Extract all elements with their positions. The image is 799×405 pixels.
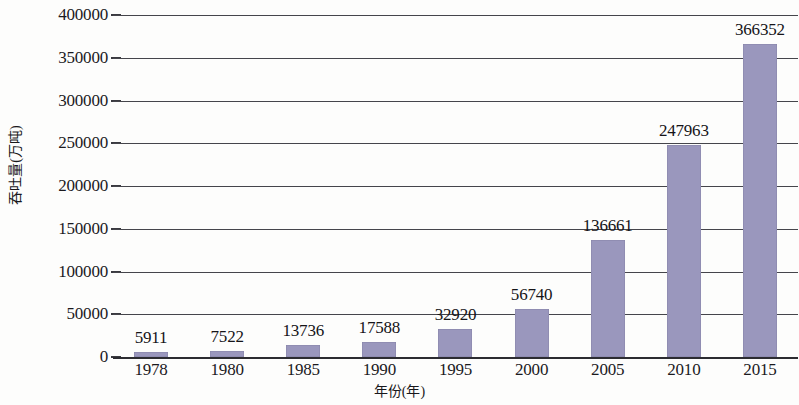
bar[interactable]: [362, 342, 396, 357]
x-axis-tick-label: 2005: [591, 360, 624, 380]
x-axis-title: 年份(年): [0, 380, 799, 400]
bar-group: 247963: [646, 15, 722, 357]
gridline: [113, 357, 798, 359]
bar[interactable]: [286, 345, 320, 357]
bar[interactable]: [134, 352, 168, 357]
bar-group: 17588: [341, 15, 417, 357]
y-axis-tick-label: 150000: [0, 219, 108, 239]
bar-value-label: 366352: [735, 20, 785, 40]
bar[interactable]: [591, 240, 625, 357]
y-axis-tick-label: 300000: [0, 91, 108, 111]
bar[interactable]: [743, 44, 777, 357]
bar-group: 366352: [722, 15, 798, 357]
x-axis-tick-label: 2010: [667, 360, 700, 380]
y-axis-tick-label: 400000: [0, 5, 108, 25]
y-axis-tick-label: 50000: [0, 304, 108, 324]
bar[interactable]: [210, 351, 244, 357]
bar-chart: 吞吐量(万吨) 05000010000015000020000025000030…: [0, 0, 799, 405]
bar[interactable]: [515, 309, 549, 358]
x-axis-tick-label: 1978: [134, 360, 167, 380]
x-axis-tick-label: 2015: [743, 360, 776, 380]
bar-group: 13736: [265, 15, 341, 357]
bar[interactable]: [438, 329, 472, 357]
y-axis-tick-label: 200000: [0, 176, 108, 196]
bar-group: 136661: [570, 15, 646, 357]
bar-value-label: 17588: [359, 318, 401, 338]
bar-group: 5911: [113, 15, 189, 357]
bar-value-label: 32920: [435, 305, 477, 325]
bar-value-label: 136661: [583, 216, 633, 236]
bar[interactable]: [667, 145, 701, 357]
x-axis-tick-label: 1980: [211, 360, 244, 380]
bar-value-label: 7522: [211, 327, 244, 347]
x-axis-tick-label: 1995: [439, 360, 472, 380]
bar-group: 32920: [417, 15, 493, 357]
bar-value-label: 56740: [511, 285, 553, 305]
y-axis-tick-label: 350000: [0, 48, 108, 68]
y-axis-tick-label: 100000: [0, 262, 108, 282]
bar-value-label: 247963: [659, 121, 709, 141]
y-axis-tick-label: 250000: [0, 133, 108, 153]
x-axis-tick-label: 1990: [363, 360, 396, 380]
bar-value-label: 5911: [135, 328, 168, 348]
bar-value-label: 13736: [283, 321, 325, 341]
bar-group: 56740: [494, 15, 570, 357]
bars-layer: 5911752213736175883292056740136661247963…: [113, 15, 798, 357]
x-axis-tick-label: 1985: [287, 360, 320, 380]
bar-group: 7522: [189, 15, 265, 357]
x-axis-tick-label: 2000: [515, 360, 548, 380]
y-axis-tick-label: 0: [0, 347, 108, 367]
y-axis-tick-labels: 0500001000001500002000002500003000003500…: [0, 0, 108, 405]
